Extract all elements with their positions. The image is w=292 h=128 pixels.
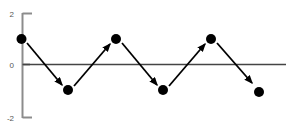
data-point-marker bbox=[63, 85, 73, 95]
data-point-marker bbox=[111, 34, 121, 44]
y-tick-label-minus-2: -2 bbox=[7, 114, 15, 123]
y-tick-label-0: 0 bbox=[10, 61, 15, 70]
data-point-marker bbox=[158, 85, 168, 95]
arrow-point5-to-point6 bbox=[217, 43, 252, 83]
y-tick-label-2: 2 bbox=[10, 10, 15, 19]
data-point-marker bbox=[17, 34, 27, 44]
chart-figure: 2 0 -2 bbox=[0, 0, 292, 128]
alternating-sequence-chart: 2 0 -2 bbox=[0, 0, 292, 128]
data-point-marker bbox=[254, 87, 264, 97]
data-point-marker bbox=[206, 34, 216, 44]
